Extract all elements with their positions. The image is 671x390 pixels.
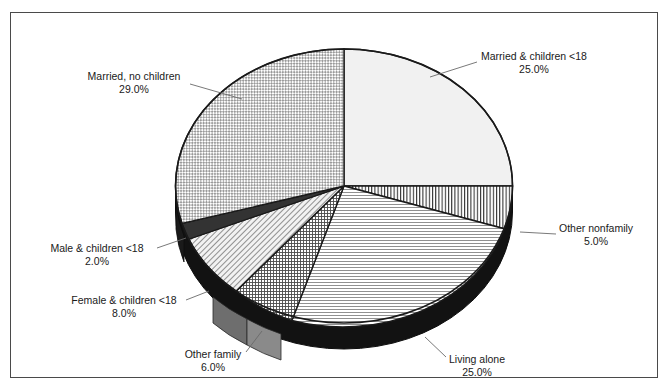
slice-value-male-children: 2.0% bbox=[38, 255, 156, 268]
slice-label-living-alone: Living alone 25.0% bbox=[449, 353, 505, 378]
slice-label-female-children: Female & children <18 8.0% bbox=[63, 294, 185, 319]
leader-line-female-children bbox=[186, 291, 209, 300]
slice-value-female-children: 8.0% bbox=[63, 307, 185, 320]
slice-label-male-children-name: Male & children <18 bbox=[50, 242, 143, 254]
slice-label-married-children: Married & children <18 25.0% bbox=[481, 50, 587, 75]
slice-label-other-nonfamily-name: Other nonfamily bbox=[559, 222, 633, 234]
figure-canvas: Married & children <18 25.0% Other nonfa… bbox=[0, 0, 671, 390]
slice-value-living-alone: 25.0% bbox=[449, 366, 505, 379]
slice-value-married-children: 25.0% bbox=[481, 63, 587, 76]
slice-label-female-children-name: Female & children <18 bbox=[71, 294, 176, 306]
slice-label-married-children-name: Married & children <18 bbox=[481, 50, 587, 62]
slice-label-other-family: Other family 6.0% bbox=[178, 348, 248, 373]
leader-line-married-children bbox=[430, 62, 477, 77]
slice-value-other-nonfamily: 5.0% bbox=[559, 235, 633, 248]
leader-line-living-alone bbox=[425, 337, 446, 357]
slice-label-male-children: Male & children <18 2.0% bbox=[38, 242, 156, 267]
slice-label-married-no-children-name: Married, no children bbox=[88, 70, 181, 82]
slice-value-married-no-children: 29.0% bbox=[78, 83, 190, 96]
leader-line-other-nonfamily bbox=[520, 232, 556, 234]
slice-label-other-family-name: Other family bbox=[185, 348, 242, 360]
slice-value-other-family: 6.0% bbox=[178, 361, 248, 374]
slice-label-living-alone-name: Living alone bbox=[449, 353, 505, 365]
pie-chart: Married & children <18 25.0% Other nonfa… bbox=[0, 0, 671, 390]
slice-label-other-nonfamily: Other nonfamily 5.0% bbox=[559, 222, 633, 247]
slice-label-married-no-children: Married, no children 29.0% bbox=[78, 70, 190, 95]
